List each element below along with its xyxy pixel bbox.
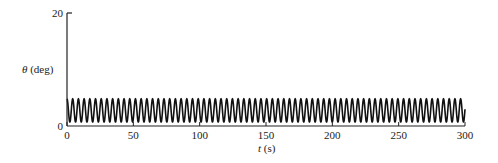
x-tick-label: 200 xyxy=(324,129,341,141)
x-axis-label: t (s) xyxy=(258,142,276,155)
theta-line xyxy=(67,99,465,122)
theta-vs-time-chart: 050100150200250300 020 θ (deg) t (s) xyxy=(0,0,498,163)
x-tick-label: 50 xyxy=(128,129,140,141)
theta-series-line xyxy=(67,99,465,122)
x-tick-label: 150 xyxy=(258,129,275,141)
y-tick-label: 0 xyxy=(58,120,64,132)
y-axis-label: θ (deg) xyxy=(22,63,54,76)
x-tick-label: 300 xyxy=(457,129,474,141)
y-tick-label: 20 xyxy=(52,7,64,19)
x-axis-ticks: 050100150200250300 xyxy=(64,122,474,141)
y-axis-ticks: 020 xyxy=(52,7,64,132)
x-tick-label: 100 xyxy=(191,129,208,141)
x-tick-label: 0 xyxy=(64,129,70,141)
x-tick-label: 250 xyxy=(390,129,407,141)
